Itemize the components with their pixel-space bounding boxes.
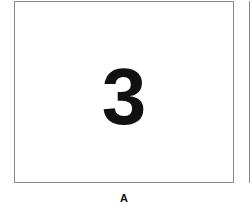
image-panel: 3 (14, 1, 234, 183)
panel-digit: 3 (15, 52, 233, 142)
adjacent-panel-edge (249, 1, 250, 183)
panel-caption: A (14, 192, 234, 204)
